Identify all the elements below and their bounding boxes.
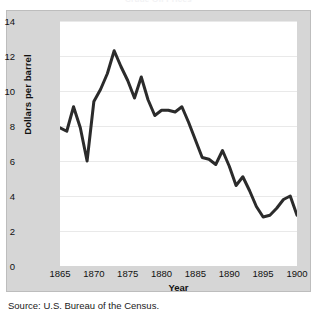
line-chart-svg	[60, 21, 297, 266]
y-axis-title: Dollars per barrel	[22, 35, 33, 155]
source-note: Source: U.S. Bureau of the Census.	[8, 300, 159, 311]
x-tick-label: 1875	[111, 269, 145, 279]
y-tick-label: 0	[0, 262, 15, 272]
chart-title-cutoff: Crude Oil Prices	[6, 0, 311, 9]
y-tick-label: 8	[0, 122, 15, 132]
chart-figure: Crude Oil Prices Dollars per barrel 0 2 …	[0, 0, 317, 322]
x-tick-label: 1895	[246, 269, 280, 279]
x-tick-label: 1885	[178, 269, 212, 279]
x-tick-label: 1870	[77, 269, 111, 279]
gridlines	[60, 22, 297, 232]
chart-title-text: Crude Oil Prices	[125, 0, 192, 4]
y-tick-label: 2	[0, 227, 15, 237]
x-tick-label: 1865	[43, 269, 77, 279]
data-series-line	[60, 51, 297, 217]
y-tick-label: 6	[0, 157, 15, 167]
y-tick-label: 4	[0, 192, 15, 202]
chart-panel: Dollars per barrel 0 2 4 6 8 10 12 14	[6, 10, 311, 292]
plot-area	[60, 21, 297, 266]
y-tick-label: 14	[0, 17, 15, 27]
footer-divider	[6, 292, 311, 293]
x-tick-label: 1900	[280, 269, 314, 279]
x-tick-label: 1890	[212, 269, 246, 279]
y-tick-label: 10	[0, 87, 15, 97]
x-tick-label: 1880	[145, 269, 179, 279]
y-tick-label: 12	[0, 52, 15, 62]
